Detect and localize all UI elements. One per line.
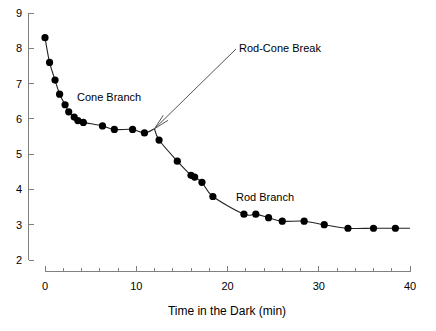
y-tick-label-5: 5	[16, 148, 22, 160]
x-axis-title: Time in the Dark (min)	[168, 304, 286, 318]
y-tick-label-9: 9	[16, 7, 22, 19]
cone-branch-points	[41, 34, 148, 136]
x-tick-label-10: 10	[130, 280, 142, 292]
data-point-rod-4	[198, 179, 205, 186]
rod-branch-points	[155, 136, 399, 231]
data-point-rod-7	[252, 211, 259, 218]
annotation-rod-cone-break: Rod-Cone Break	[155, 42, 322, 129]
data-point-cone-10	[111, 126, 118, 133]
data-point-rod-10	[301, 218, 308, 225]
y-tick-label-8: 8	[16, 42, 22, 54]
data-point-cone-3	[56, 91, 63, 98]
y-tick-label-2: 2	[16, 254, 22, 266]
data-point-cone-9	[99, 122, 106, 129]
dark-adaptation-chart: 9 8 7 6 5 4 3 2	[0, 0, 436, 331]
data-point-rod-8	[265, 214, 272, 221]
y-tick-label-3: 3	[16, 219, 22, 231]
data-point-cone-8	[80, 119, 87, 126]
data-point-rod-0	[155, 136, 162, 143]
data-point-cone-0	[41, 34, 48, 41]
x-tick-label-40: 40	[404, 280, 416, 292]
data-point-rod-13	[370, 225, 377, 232]
x-axis: 0 10 20 30 40 Time in the Dark (min)	[42, 266, 416, 318]
x-tick-label-20: 20	[221, 280, 233, 292]
data-point-cone-5	[65, 108, 72, 115]
cone-branch-curve	[45, 38, 155, 133]
x-tick-label-30: 30	[313, 280, 325, 292]
rod-branch-label: Rod Branch	[236, 191, 294, 203]
data-point-cone-2	[51, 76, 58, 83]
data-point-rod-14	[392, 225, 399, 232]
y-tick-label-7: 7	[16, 78, 22, 90]
data-point-cone-4	[61, 101, 68, 108]
annotation-cone-branch: Cone Branch	[77, 91, 141, 103]
y-axis: 9 8 7 6 5 4 3 2	[16, 7, 34, 266]
chart-canvas: 9 8 7 6 5 4 3 2	[0, 0, 436, 331]
data-point-rod-3	[191, 173, 198, 180]
cone-branch-label: Cone Branch	[77, 91, 141, 103]
data-point-cone-12	[141, 129, 148, 136]
data-point-rod-12	[344, 225, 351, 232]
data-point-rod-1	[174, 158, 181, 165]
rod-cone-break-label: Rod-Cone Break	[239, 42, 321, 54]
x-tick-label-0: 0	[42, 280, 48, 292]
data-point-cone-1	[46, 59, 53, 66]
y-axis-ticks	[29, 13, 35, 260]
rod-cone-break-leader-line	[155, 49, 237, 129]
data-point-rod-9	[279, 218, 286, 225]
data-point-rod-6	[240, 211, 247, 218]
annotation-rod-branch: Rod Branch	[236, 191, 294, 203]
data-point-cone-11	[129, 126, 136, 133]
data-point-rod-11	[321, 221, 328, 228]
y-tick-label-4: 4	[16, 183, 22, 195]
data-point-rod-5	[209, 193, 216, 200]
y-tick-label-6: 6	[16, 113, 22, 125]
